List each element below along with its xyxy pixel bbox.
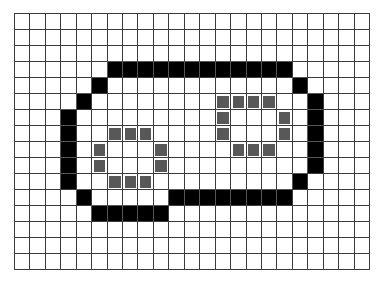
grid-cell-black[interactable]	[153, 205, 168, 221]
grid-cell-empty[interactable]	[199, 173, 214, 189]
grid-cell-empty[interactable]	[14, 125, 29, 141]
grid-cell-black[interactable]	[246, 189, 261, 205]
grid-cell-empty[interactable]	[246, 13, 261, 29]
grid-cell-empty[interactable]	[153, 173, 168, 189]
grid-cell-empty[interactable]	[91, 109, 106, 125]
grid-cell-empty[interactable]	[107, 29, 122, 45]
grid-cell-empty[interactable]	[323, 13, 338, 29]
grid-cell-black[interactable]	[230, 61, 245, 77]
grid-cell-empty[interactable]	[45, 13, 60, 29]
grid-cell-black[interactable]	[276, 61, 291, 77]
grid-cell-empty[interactable]	[91, 173, 106, 189]
grid-cell-empty[interactable]	[307, 13, 322, 29]
grid-cell-empty[interactable]	[137, 141, 152, 157]
grid-cell-black[interactable]	[246, 61, 261, 77]
grid-cell-empty[interactable]	[199, 13, 214, 29]
grid-cell-empty[interactable]	[323, 157, 338, 173]
grid-cell-empty[interactable]	[45, 29, 60, 45]
grid-cell-empty[interactable]	[199, 125, 214, 141]
grid-cell-empty[interactable]	[107, 141, 122, 157]
grid-cell-empty[interactable]	[137, 29, 152, 45]
grid-cell-empty[interactable]	[338, 45, 353, 61]
grid-cell-empty[interactable]	[338, 221, 353, 237]
grid-cell-empty[interactable]	[45, 141, 60, 157]
grid-cell-empty[interactable]	[137, 13, 152, 29]
grid-cell-empty[interactable]	[107, 93, 122, 109]
grid-cell-empty[interactable]	[91, 61, 106, 77]
grid-cell-empty[interactable]	[199, 29, 214, 45]
grid-cell-empty[interactable]	[215, 157, 230, 173]
grid-cell-empty[interactable]	[276, 157, 291, 173]
grid-cell-empty[interactable]	[153, 125, 168, 141]
grid-cell-empty[interactable]	[168, 221, 183, 237]
grid-cell-empty[interactable]	[276, 205, 291, 221]
grid-cell-empty[interactable]	[122, 189, 137, 205]
grid-cell-empty[interactable]	[199, 237, 214, 253]
grid-cell-empty[interactable]	[354, 45, 369, 61]
grid-cell-empty[interactable]	[215, 205, 230, 221]
grid-cell-empty[interactable]	[338, 109, 353, 125]
grid-cell-empty[interactable]	[29, 29, 44, 45]
grid-cell-gray[interactable]	[230, 141, 245, 157]
grid-cell-black[interactable]	[292, 173, 307, 189]
grid-cell-empty[interactable]	[323, 237, 338, 253]
grid-cell-empty[interactable]	[323, 189, 338, 205]
grid-cell-empty[interactable]	[168, 77, 183, 93]
grid-cell-empty[interactable]	[45, 221, 60, 237]
grid-cell-empty[interactable]	[76, 141, 91, 157]
grid-cell-empty[interactable]	[338, 253, 353, 269]
grid-cell-empty[interactable]	[153, 189, 168, 205]
grid-cell-empty[interactable]	[184, 173, 199, 189]
grid-cell-empty[interactable]	[323, 93, 338, 109]
grid-cell-empty[interactable]	[29, 13, 44, 29]
grid-cell-empty[interactable]	[76, 221, 91, 237]
grid-cell-empty[interactable]	[292, 205, 307, 221]
grid-cell-empty[interactable]	[199, 93, 214, 109]
grid-cell-black[interactable]	[168, 61, 183, 77]
grid-cell-empty[interactable]	[261, 173, 276, 189]
grid-cell-empty[interactable]	[354, 157, 369, 173]
grid-cell-empty[interactable]	[153, 45, 168, 61]
grid-cell-empty[interactable]	[215, 29, 230, 45]
grid-cell-black[interactable]	[107, 61, 122, 77]
grid-cell-empty[interactable]	[246, 205, 261, 221]
grid-cell-empty[interactable]	[184, 29, 199, 45]
grid-cell-empty[interactable]	[354, 221, 369, 237]
grid-cell-empty[interactable]	[76, 45, 91, 61]
grid-cell-empty[interactable]	[91, 93, 106, 109]
grid-cell-empty[interactable]	[292, 253, 307, 269]
grid-cell-empty[interactable]	[60, 93, 75, 109]
grid-cell-empty[interactable]	[60, 13, 75, 29]
grid-cell-empty[interactable]	[45, 77, 60, 93]
grid-cell-empty[interactable]	[153, 77, 168, 93]
grid-cell-empty[interactable]	[122, 109, 137, 125]
grid-cell-gray[interactable]	[261, 141, 276, 157]
grid-cell-black[interactable]	[307, 109, 322, 125]
grid-cell-black[interactable]	[60, 173, 75, 189]
grid-cell-empty[interactable]	[168, 109, 183, 125]
grid-cell-empty[interactable]	[184, 45, 199, 61]
grid-cell-empty[interactable]	[45, 205, 60, 221]
grid-cell-gray[interactable]	[215, 125, 230, 141]
grid-cell-empty[interactable]	[76, 205, 91, 221]
grid-cell-empty[interactable]	[307, 253, 322, 269]
grid-cell-empty[interactable]	[338, 237, 353, 253]
grid-cell-empty[interactable]	[107, 157, 122, 173]
grid-cell-empty[interactable]	[14, 221, 29, 237]
grid-cell-black[interactable]	[276, 189, 291, 205]
grid-cell-empty[interactable]	[60, 77, 75, 93]
grid-cell-empty[interactable]	[76, 157, 91, 173]
grid-cell-empty[interactable]	[292, 93, 307, 109]
grid-cell-empty[interactable]	[60, 29, 75, 45]
grid-cell-empty[interactable]	[122, 93, 137, 109]
grid-cell-empty[interactable]	[338, 189, 353, 205]
grid-cell-empty[interactable]	[354, 109, 369, 125]
grid-cell-empty[interactable]	[29, 125, 44, 141]
grid-cell-empty[interactable]	[45, 253, 60, 269]
grid-cell-empty[interactable]	[122, 13, 137, 29]
grid-cell-gray[interactable]	[215, 93, 230, 109]
grid-cell-black[interactable]	[184, 189, 199, 205]
grid-cell-empty[interactable]	[29, 253, 44, 269]
grid-cell-empty[interactable]	[184, 141, 199, 157]
grid-cell-empty[interactable]	[307, 237, 322, 253]
